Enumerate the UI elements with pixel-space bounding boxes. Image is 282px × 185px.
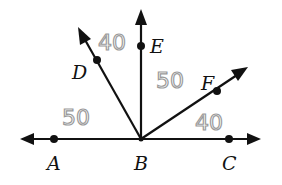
label-d: D — [71, 61, 87, 83]
arrow-right-icon — [247, 133, 261, 145]
arrow-left-icon — [20, 133, 34, 145]
arrow-f-icon — [231, 67, 248, 81]
point-a — [50, 135, 58, 143]
point-e — [137, 42, 145, 50]
point-f — [213, 87, 221, 95]
point-b — [139, 137, 144, 142]
label-b: B — [133, 152, 148, 174]
label-f: F — [200, 72, 215, 94]
angle-diagram: A B C D E F 50 40 50 40 — [0, 0, 282, 185]
point-c — [225, 135, 233, 143]
angle-ebf-label: 50 — [156, 68, 184, 93]
angle-fbc-label: 40 — [195, 110, 223, 135]
angle-abd-label: 50 — [62, 105, 90, 130]
angle-dbe-label: 40 — [98, 30, 126, 55]
arrow-d-icon — [78, 27, 91, 45]
point-d — [93, 56, 101, 64]
label-e: E — [149, 35, 164, 57]
label-c: C — [222, 152, 237, 174]
label-a: A — [45, 152, 61, 174]
arrow-up-icon — [135, 9, 147, 25]
